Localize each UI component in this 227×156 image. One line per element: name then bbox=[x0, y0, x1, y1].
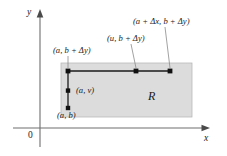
x-axis-label: x bbox=[204, 134, 208, 144]
region-label: R bbox=[148, 90, 155, 102]
y-axis-arrowhead bbox=[37, 9, 44, 18]
point-corner-top-right bbox=[168, 69, 173, 74]
figure-graphics bbox=[0, 0, 227, 156]
point-interior-left bbox=[66, 88, 70, 92]
x-axis-arrowhead bbox=[202, 125, 211, 132]
label-corner-top-right: (a + Δx, b + Δy) bbox=[133, 17, 190, 26]
figure-canvas: y x 0 R (a, b + Δy) (u, b + Δy) (a + Δx,… bbox=[0, 0, 227, 156]
y-axis-label: y bbox=[27, 8, 31, 18]
label-top-middle: (u, b + Δy) bbox=[107, 34, 145, 43]
label-interior-left: (a, v) bbox=[76, 86, 94, 95]
label-corner-bottom-left: (a, b) bbox=[57, 111, 76, 120]
point-corner-top-left bbox=[66, 69, 71, 74]
point-top-middle bbox=[134, 69, 139, 74]
label-corner-top-left: (a, b + Δy) bbox=[53, 46, 91, 55]
origin-label: 0 bbox=[28, 131, 33, 141]
leader-line-top-right bbox=[165, 27, 170, 68]
